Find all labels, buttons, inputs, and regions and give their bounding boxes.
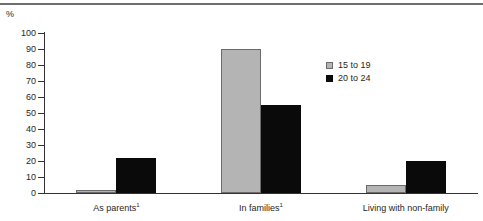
y-axis-tick-labels: 1009080706050403020100 (0, 0, 36, 221)
y-axis-tick-label: 70 (2, 77, 36, 86)
y-axis-tick (38, 129, 44, 130)
category-label-0: As parents1 (44, 203, 189, 213)
legend-item-1: 20 to 24 (326, 73, 371, 84)
bar-2-series-1 (406, 161, 446, 193)
y-axis-tick-label: 60 (2, 93, 36, 102)
y-axis-tick-label: 10 (2, 173, 36, 182)
y-axis-tick-label: 90 (2, 45, 36, 54)
y-axis-tick-label: 0 (2, 189, 36, 198)
category-footnote-marker: 1 (136, 202, 139, 208)
category-label-1: In families1 (189, 203, 334, 213)
category-label-2: Living with non-family (333, 203, 478, 213)
y-axis-tick (38, 49, 44, 50)
y-axis-tick (38, 161, 44, 162)
bar-2-series-0 (366, 185, 406, 193)
gray-square-swatch (326, 62, 333, 69)
bar-1-series-1 (261, 105, 301, 193)
y-axis-tick (38, 81, 44, 82)
y-axis-tick (38, 113, 44, 114)
y-axis-tick-label: 100 (2, 29, 36, 38)
category-footnote-marker: 1 (280, 202, 283, 208)
legend-item-label: 20 to 24 (338, 73, 371, 84)
bar-0-series-0 (76, 190, 116, 193)
y-axis-tick-label: 50 (2, 109, 36, 118)
chart-legend: 15 to 1920 to 24 (326, 60, 371, 86)
y-axis-tick (38, 65, 44, 66)
top-divider-rule (0, 3, 483, 5)
y-axis-tick-label: 30 (2, 141, 36, 150)
y-axis-tick (38, 193, 44, 194)
y-axis-tick-label: 80 (2, 61, 36, 70)
x-axis-line (44, 193, 478, 194)
bar-chart-figure: % 1009080706050403020100 As parents1In f… (0, 0, 483, 221)
bar-0-series-1 (116, 158, 156, 193)
legend-item-0: 15 to 19 (326, 60, 371, 71)
y-axis-line (44, 32, 45, 194)
bar-1-series-0 (221, 49, 261, 193)
y-axis-tick (38, 97, 44, 98)
y-axis-tick (38, 177, 44, 178)
legend-item-label: 15 to 19 (338, 60, 371, 71)
y-axis-tick (38, 33, 44, 34)
y-axis-tick (38, 145, 44, 146)
black-square-swatch (326, 75, 333, 82)
y-axis-tick-label: 40 (2, 125, 36, 134)
y-axis-tick-label: 20 (2, 157, 36, 166)
